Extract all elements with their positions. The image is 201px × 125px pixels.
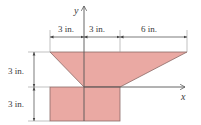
y-axis-label: y [73, 5, 79, 16]
composite-area-figure: y x 3 in. 3 in. 6 in. 3 in. 3 in. [0, 0, 201, 125]
x-axis-label: x [180, 91, 186, 102]
lower-rectangle-shape [50, 87, 120, 121]
dim-label-top-middle: 3 in. [89, 24, 105, 34]
dim-label-left-lower: 3 in. [8, 99, 24, 109]
upper-trapezoid-shape [50, 52, 187, 87]
dim-label-top-right: 6 in. [141, 24, 157, 34]
dim-label-left-upper: 3 in. [8, 66, 24, 76]
dim-label-top-left: 3 in. [58, 24, 74, 34]
